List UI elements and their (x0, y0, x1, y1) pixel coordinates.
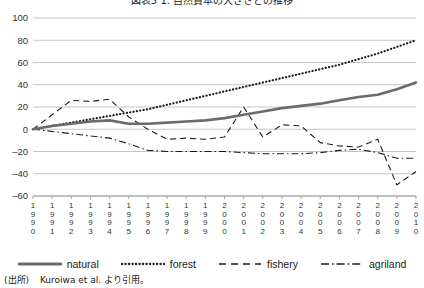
chart-x-axis-labels: 1990199119921993199419951996199719981999… (31, 201, 419, 236)
y-axis-tick-label: 0 (23, 124, 28, 135)
line-chart: 100806040200–20–40–60 199019911992199319… (0, 10, 424, 258)
chart-gridlines (33, 18, 416, 199)
x-axis-tick-label-digit: 0 (31, 227, 36, 236)
figure-title: 図表5 1. 自然資本の大きさとの推移 (0, 0, 424, 6)
y-axis-tick-label: 80 (17, 35, 28, 46)
chart-series-layer (33, 40, 416, 185)
x-axis-tick-label-digit: 4 (299, 227, 304, 236)
figure-root: 図表5 1. 自然資本の大きさとの推移 100806040200–20–40–6… (0, 0, 424, 288)
x-axis-tick-label-digit: 5 (318, 227, 323, 236)
series-line-agriland (33, 129, 416, 158)
y-axis-tick-label: 60 (17, 57, 28, 68)
x-axis-tick-label-digit: 0 (414, 227, 419, 236)
x-axis-tick-label-digit: 3 (88, 227, 93, 236)
legend-label-fishery: fishery (267, 258, 298, 270)
y-axis-tick-label: 100 (12, 12, 28, 23)
series-line-natural (33, 83, 416, 130)
x-axis-tick-label-digit: 7 (165, 227, 170, 236)
line-dashdot-icon (320, 259, 364, 269)
legend-label-forest: forest (170, 258, 196, 270)
y-axis-tick-label: –60 (12, 190, 28, 201)
x-axis-tick-label-digit: 2 (261, 227, 266, 236)
legend-label-agriland: agriland (369, 258, 406, 270)
x-axis-tick-label-digit: 9 (203, 227, 208, 236)
x-axis-tick-label-digit: 6 (337, 227, 342, 236)
x-axis-tick-label-digit: 8 (184, 227, 189, 236)
x-axis-tick-label-digit: 4 (107, 227, 112, 236)
x-axis-tick-label-digit: 1 (241, 227, 246, 236)
series-line-fishery (33, 99, 416, 185)
legend-item-agriland[interactable]: agriland (320, 258, 406, 270)
y-axis-tick-label: –40 (12, 168, 28, 179)
x-axis-tick-label-digit: 9 (395, 227, 400, 236)
y-axis-tick-label: 40 (17, 79, 28, 90)
chart-plot-area: 100806040200–20–40–60 199019911992199319… (0, 10, 424, 258)
figure-source: (出所) Kuroiwa et al. より引用。 (4, 273, 149, 286)
source-label: (出所) (4, 275, 29, 285)
legend-item-forest[interactable]: forest (121, 258, 196, 270)
y-axis-tick-label: 20 (17, 101, 28, 112)
x-axis-tick-label-digit: 7 (356, 227, 361, 236)
line-dotted-icon (121, 259, 165, 269)
source-text: Kuroiwa et al. より引用。 (40, 275, 149, 285)
x-axis-tick-label-digit: 8 (375, 227, 380, 236)
legend-item-natural[interactable]: natural (18, 258, 99, 270)
legend-item-fishery[interactable]: fishery (218, 258, 298, 270)
y-axis-tick-label: –20 (12, 146, 28, 157)
x-axis-tick-label-digit: 5 (127, 227, 132, 236)
line-dashed-icon (218, 259, 262, 269)
x-axis-tick-label-digit: 1 (50, 227, 55, 236)
legend-label-natural: natural (67, 258, 99, 270)
x-axis-tick-label-digit: 3 (280, 227, 285, 236)
chart-legend: natural forest fishery agriland (0, 256, 424, 272)
chart-y-axis-labels: 100806040200–20–40–60 (12, 12, 28, 201)
line-solid-icon (18, 259, 62, 269)
x-axis-tick-label-digit: 2 (69, 227, 74, 236)
x-axis-tick-label-digit: 6 (146, 227, 151, 236)
x-axis-tick-label-digit: 0 (222, 227, 227, 236)
